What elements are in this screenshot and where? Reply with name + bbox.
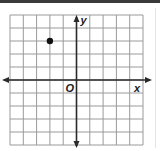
- y-axis-label: y: [80, 14, 88, 26]
- origin-label: O: [66, 82, 75, 94]
- data-point: [47, 38, 53, 44]
- coordinate-plane: x y O: [0, 0, 160, 151]
- y-axis-up-arrow-icon: [74, 15, 80, 22]
- plotted-points: [47, 38, 53, 44]
- x-axis-right-arrow-icon: [145, 77, 152, 83]
- x-axis-label: x: [133, 82, 141, 94]
- x-axis-left-arrow-icon: [2, 77, 9, 83]
